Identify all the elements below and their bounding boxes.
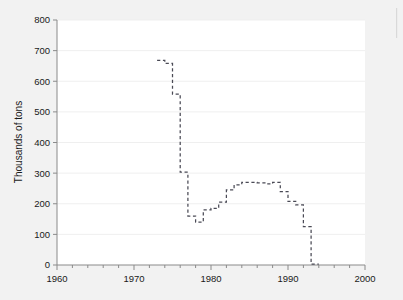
x-tick-label: 1990 <box>277 273 298 284</box>
y-tick-label: 300 <box>34 168 50 179</box>
y-tick-label: 700 <box>34 45 50 56</box>
x-tick-label: 1980 <box>200 273 221 284</box>
y-tick-label: 500 <box>34 106 50 117</box>
x-tick-label: 1960 <box>46 273 67 284</box>
y-tick-label: 800 <box>34 14 50 25</box>
x-tick-label: 2000 <box>354 273 375 284</box>
y-tick-label: 400 <box>34 137 50 148</box>
x-tick-label: 1970 <box>123 273 144 284</box>
chart-figure: 19601970198019902000 0100200300400500600… <box>0 0 403 300</box>
right-edge-marker <box>396 8 397 38</box>
y-tick-label: 100 <box>34 229 50 240</box>
y-axis-title: Thousands of tons <box>13 101 24 183</box>
line-chart: 19601970198019902000 0100200300400500600… <box>0 0 403 300</box>
y-tick-label: 600 <box>34 76 50 87</box>
y-tick-label: 0 <box>45 259 50 270</box>
y-axis-tick-labels: 0100200300400500600700800 <box>34 14 50 270</box>
y-tick-label: 200 <box>34 198 50 209</box>
